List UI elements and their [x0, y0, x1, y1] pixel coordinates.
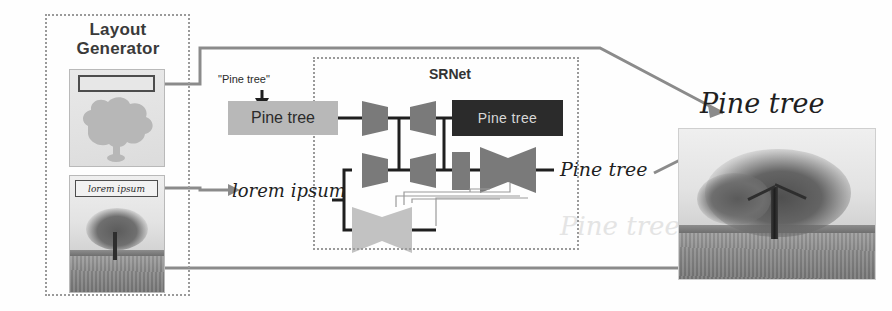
output-caption: Pine tree [700, 88, 824, 119]
srnet-title: SRNet [380, 66, 520, 82]
output-photo-trunk [771, 187, 778, 239]
source-text-box: lorem ipsum [75, 180, 158, 197]
layout-generator-title-line1: Layout [48, 20, 188, 39]
output-photo-ground [679, 233, 875, 280]
skeleton-text-box: Pine tree [452, 100, 563, 136]
photo-ground [70, 256, 164, 292]
input-text-box: Pine tree [228, 101, 338, 135]
style-prompt-label: "Pine tree" [218, 73, 328, 85]
output-photo-canopy-left [697, 173, 771, 225]
srnet-group [313, 57, 579, 250]
source-text-label: lorem ipsum [232, 180, 346, 201]
photo-trunk [113, 232, 117, 260]
layout-generator-title: Layout Generator [48, 20, 188, 58]
skeleton-text-box-value: Pine tree [478, 110, 538, 126]
layout-generator-title-line2: Generator [48, 39, 188, 58]
output-image [678, 128, 876, 280]
photo-canopy [86, 208, 148, 250]
source-text-box-value: lorem ipsum [88, 184, 145, 194]
tree-silhouette-icon [74, 96, 160, 162]
intermediate-output-label: Pine tree [560, 158, 648, 180]
input-text-box-value: Pine tree [251, 109, 315, 127]
semantic-text-placeholder-box [78, 75, 155, 92]
figure-canvas: Pine tree [0, 0, 892, 311]
